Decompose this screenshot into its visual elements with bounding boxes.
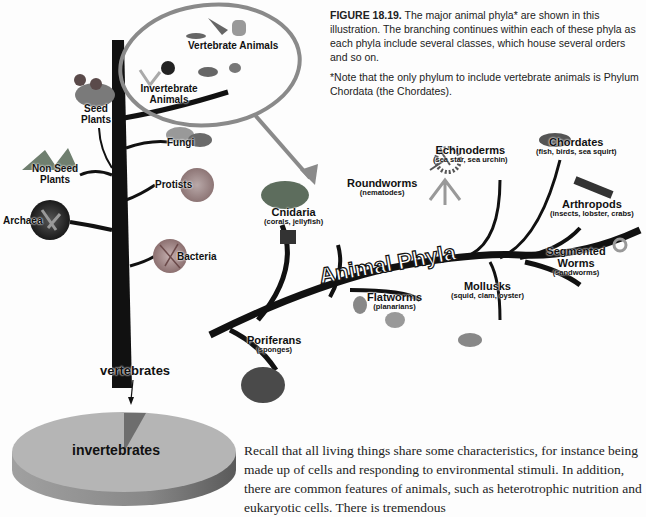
- phylum-examples: (fish, birds, sea squirt): [536, 148, 616, 156]
- phylum-examples: (sea star, sea urchin): [433, 156, 508, 164]
- label-protists: Protists: [155, 179, 192, 190]
- label-bacteria: Bacteria: [177, 251, 216, 262]
- vertebrate-animals-art: [140, 18, 246, 85]
- label-non-seed-plants: Non Seed Plants: [30, 163, 80, 185]
- phylum-chordates: Chordates (fish, birds, sea squirt): [536, 136, 616, 156]
- phylum-mollusks: Mollusks (squid, clam, oyster): [451, 280, 524, 300]
- phylum-roundworms: Roundworms (nematodes): [347, 177, 417, 197]
- phylum-examples: (planarians): [367, 303, 422, 311]
- label-invertebrate-animals: Invertebrate Animals: [138, 83, 200, 105]
- pie-label-invertebrates: invertebrates: [72, 443, 160, 458]
- label-archaea: Archaea: [3, 215, 42, 226]
- phylum-segmented-worms: Segmented Worms (sandworms): [545, 245, 607, 277]
- label-vertebrate-animals: Vertebrate Animals: [188, 40, 278, 51]
- phylum-name: Segmented Worms: [545, 245, 607, 269]
- pie-label-vertebrates: vertebrates: [100, 364, 170, 378]
- phylum-examples: (corals, jellyfish): [264, 218, 323, 226]
- phylum-examples: (squid, clam, oyster): [451, 292, 524, 300]
- phylum-examples: (sponges): [247, 346, 301, 354]
- body-paragraph: Recall that all living things share some…: [244, 441, 644, 517]
- phylum-examples: (sandworms): [545, 269, 607, 277]
- phylum-cnidaria: Cnidaria (corals, jellyfish): [264, 206, 323, 226]
- phylum-examples: (nematodes): [347, 189, 417, 197]
- phylum-echinoderms: Echinoderms (sea star, sea urchin): [433, 144, 508, 164]
- phylum-examples: (insects, lobster, crabs): [550, 210, 634, 218]
- phylum-poriferans: Poriferans (sponges): [247, 334, 301, 354]
- phylum-arthropods: Arthropods (insects, lobster, crabs): [550, 198, 634, 218]
- phylum-flatworms: Flatworms (planarians): [367, 291, 422, 311]
- label-seed-plants: Seed Plants: [80, 103, 112, 125]
- label-fungi: Fungi: [167, 137, 194, 148]
